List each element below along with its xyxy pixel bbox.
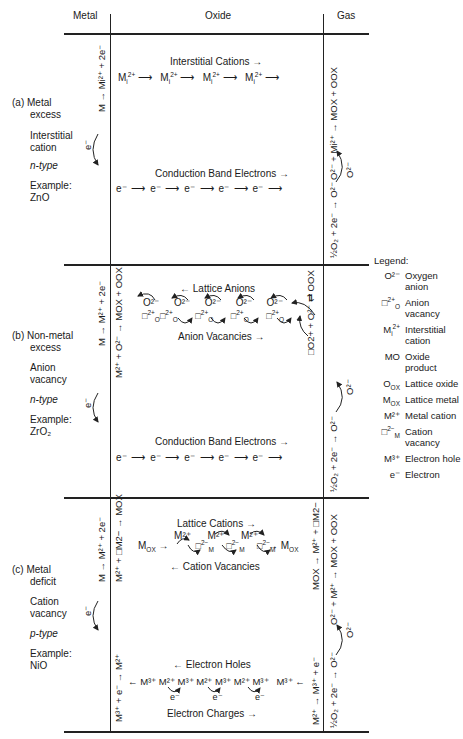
legend-item: Mi2+Interstitial cation <box>374 324 463 346</box>
legend-item: MOXLattice metal <box>374 394 463 405</box>
legend-item: M³⁺Electron hole <box>374 453 463 464</box>
legend-item: MOOxide product <box>374 351 463 373</box>
legend-item: O²⁻Oxygen anion <box>374 270 463 292</box>
legend-item: OOXLattice oxide <box>374 378 463 389</box>
legend-title: Legend: <box>374 255 463 266</box>
legend-item: e⁻Electron <box>374 469 463 480</box>
legend-item: M²⁺Metal cation <box>374 410 463 421</box>
legend: Legend: O²⁻Oxygen anion □2+OAnion vacanc… <box>374 255 463 485</box>
legend-item: □2+OAnion vacancy <box>374 297 463 319</box>
legend-item: □2−MCation vacancy <box>374 426 463 448</box>
